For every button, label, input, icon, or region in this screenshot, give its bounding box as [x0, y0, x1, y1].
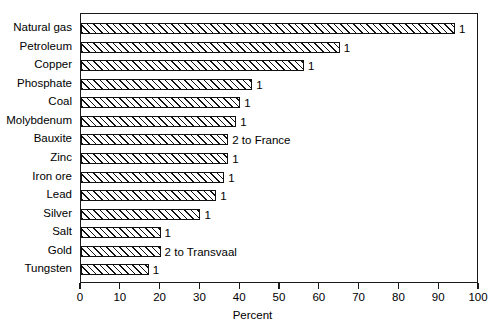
category-label: Salt — [52, 225, 72, 237]
x-axis-tick-label: 30 — [193, 291, 206, 304]
x-axis-tick-label: 90 — [432, 291, 445, 304]
category-label: Lead — [46, 188, 72, 200]
bar-annotation: 1 — [256, 80, 262, 91]
bar — [81, 172, 224, 183]
bar-annotation: 2 to Transvaal — [165, 247, 237, 258]
x-axis: 0102030405060708090100 — [80, 283, 478, 284]
bar — [81, 209, 200, 220]
bar-annotation: 1 — [459, 24, 465, 35]
plot-area: 1111112 to France111112 to Transvaal1 — [80, 13, 478, 283]
bar-annotation: 1 — [232, 154, 238, 165]
x-axis-tick — [79, 283, 80, 289]
x-axis-title: Percent — [0, 309, 501, 321]
bar — [81, 60, 304, 71]
bar — [81, 23, 455, 34]
bar-chart: Natural gasPetroleumCopperPhosphateCoalM… — [0, 0, 501, 332]
bar — [81, 116, 236, 127]
bar-annotation: 2 to France — [232, 135, 290, 146]
x-axis-tick — [318, 283, 319, 289]
x-axis-tick-label: 10 — [113, 291, 126, 304]
x-axis-tick — [477, 283, 478, 289]
x-axis-tick — [239, 283, 240, 289]
bar — [81, 97, 240, 108]
bar — [81, 153, 228, 164]
x-axis-tick — [199, 283, 200, 289]
category-label: Petroleum — [20, 40, 72, 52]
x-axis-tick-label: 40 — [233, 291, 246, 304]
bar — [81, 227, 161, 238]
bar — [81, 264, 149, 275]
bar-annotation: 1 — [165, 228, 171, 239]
bar — [81, 246, 161, 257]
x-axis-tick-label: 20 — [153, 291, 166, 304]
bar — [81, 134, 228, 145]
x-axis-tick — [438, 283, 439, 289]
x-axis-tick-label: 50 — [273, 291, 286, 304]
x-axis-tick-label: 80 — [392, 291, 405, 304]
category-label: Copper — [34, 58, 72, 70]
bar-annotation: 1 — [308, 61, 314, 72]
x-axis-tick — [119, 283, 120, 289]
x-axis-tick — [159, 283, 160, 289]
category-label: Tungsten — [24, 262, 72, 274]
bar-annotation: 1 — [228, 173, 234, 184]
category-label: Zinc — [50, 151, 72, 163]
x-axis-tick — [398, 283, 399, 289]
bar — [81, 42, 340, 53]
x-axis-title-label: Percent — [233, 309, 273, 321]
x-axis-tick-label: 100 — [468, 291, 487, 304]
bar-annotation: 1 — [240, 117, 246, 128]
category-label: Gold — [48, 244, 72, 256]
bar-annotation: 1 — [344, 43, 350, 54]
bar-annotation: 1 — [153, 265, 159, 276]
category-label: Natural gas — [13, 21, 72, 33]
x-axis-tick-label: 0 — [77, 291, 83, 304]
category-label: Bauxite — [34, 132, 72, 144]
category-label: Molybdenum — [6, 114, 72, 126]
category-axis-labels: Natural gasPetroleumCopperPhosphateCoalM… — [0, 13, 76, 283]
bar-annotation: 1 — [204, 210, 210, 221]
bar — [81, 79, 252, 90]
x-axis-tick-label: 70 — [352, 291, 365, 304]
bar-annotation: 1 — [220, 191, 226, 202]
bar — [81, 190, 216, 201]
category-label: Phosphate — [17, 77, 72, 89]
bar-annotation: 1 — [244, 98, 250, 109]
category-label: Silver — [43, 207, 72, 219]
x-axis-tick — [278, 283, 279, 289]
x-axis-tick — [358, 283, 359, 289]
x-axis-tick-label: 60 — [312, 291, 325, 304]
category-label: Coal — [48, 95, 72, 107]
category-label: Iron ore — [32, 170, 72, 182]
